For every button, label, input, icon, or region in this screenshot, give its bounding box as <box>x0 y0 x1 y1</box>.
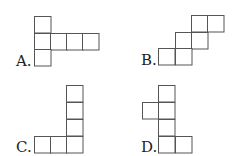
option-b: B. <box>141 16 224 70</box>
option-d-label: D. <box>141 138 157 155</box>
net-square <box>67 120 84 137</box>
net-square <box>208 16 225 33</box>
net-square <box>51 137 68 154</box>
net-square <box>159 137 176 154</box>
net-square <box>192 16 209 33</box>
net-square <box>83 34 100 51</box>
net-square <box>159 103 176 120</box>
net-square <box>192 33 209 50</box>
net-square <box>35 34 52 51</box>
net-square <box>51 34 68 51</box>
net-square <box>176 33 193 50</box>
net-square <box>159 49 176 66</box>
net-square <box>159 120 176 137</box>
net-square <box>35 137 52 154</box>
net-square <box>35 17 52 34</box>
net-square <box>143 103 160 120</box>
option-b-label: B. <box>141 51 157 69</box>
net-square <box>35 50 52 67</box>
net-square <box>67 34 84 51</box>
net-square <box>67 137 84 154</box>
option-c: C. <box>16 86 83 156</box>
net-square <box>67 86 84 103</box>
net-square <box>176 49 193 66</box>
figure-canvas: A. B. C. D. <box>0 0 238 155</box>
option-c-label: C. <box>16 138 32 155</box>
option-a: A. <box>15 17 99 71</box>
net-square <box>159 86 176 103</box>
net-square <box>67 103 84 120</box>
net-square <box>176 137 193 154</box>
option-a-label: A. <box>15 52 32 70</box>
option-d: D. <box>141 86 192 156</box>
